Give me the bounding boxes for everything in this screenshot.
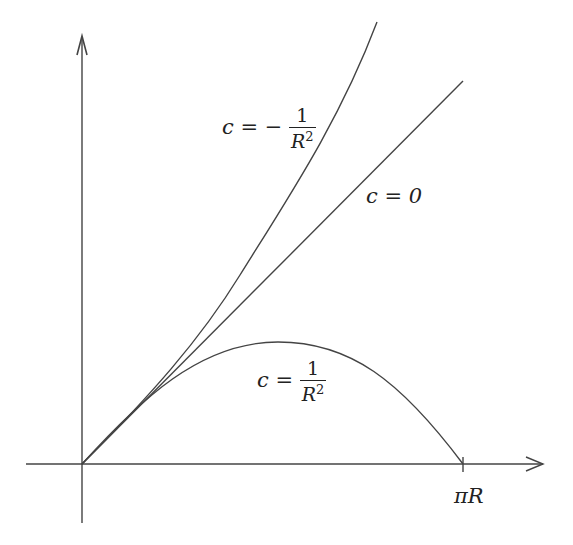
label-lhs: c =: [257, 368, 293, 392]
label-lhs: c =: [222, 115, 258, 139]
label-c-negative: c = − 1 R2: [222, 106, 316, 151]
label-sign: −: [265, 115, 283, 139]
numerator: 1: [294, 106, 310, 125]
denominator: R2: [300, 383, 327, 404]
numerator: 1: [305, 359, 321, 378]
fraction: 1 R2: [289, 106, 316, 151]
curve-c-negative: [82, 22, 377, 464]
den-exp: 2: [305, 129, 313, 144]
den-exp: 2: [316, 382, 324, 397]
den-var: R: [291, 130, 305, 152]
fraction-bar: [300, 380, 327, 381]
label-c-zero: c = 0: [366, 186, 422, 207]
tick-label-pi-r: πR: [454, 486, 484, 507]
diagram-canvas: [0, 0, 573, 545]
den-var: R: [302, 383, 316, 405]
label-text: c = 0: [366, 184, 422, 208]
fraction: 1 R2: [300, 359, 327, 404]
fraction-bar: [289, 127, 316, 128]
label-c-positive: c = 1 R2: [257, 359, 326, 404]
denominator: R2: [289, 130, 316, 151]
